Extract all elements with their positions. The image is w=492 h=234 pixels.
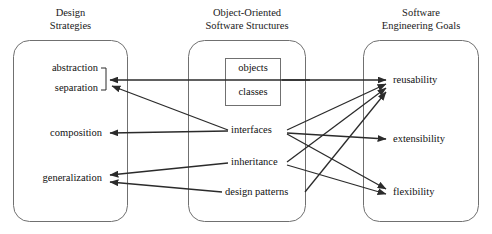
node-reusability: reusability xyxy=(393,74,437,86)
edge-inheritance-to-flexibility xyxy=(287,165,386,194)
bracket-abstraction-separation xyxy=(101,68,106,90)
column-header-line2: Software Structures xyxy=(182,20,312,33)
node-design-patterns: design patterns xyxy=(225,186,288,198)
column-header-line2: Engineering Goals xyxy=(358,20,484,33)
node-separation: separation xyxy=(20,82,98,94)
diagram-canvas: Design Strategies Object-Oriented Softwa… xyxy=(0,0,492,234)
edge-design-patterns-to-generalization xyxy=(110,182,222,192)
column-header-line2: Strategies xyxy=(13,20,128,33)
edge-interfaces-to-reusability xyxy=(287,84,386,130)
diagram-graphics xyxy=(0,0,492,234)
column-header-line1: Object-Oriented xyxy=(182,7,312,20)
column-header-oo-software-structures: Object-Oriented Software Structures xyxy=(182,7,312,32)
edge-inheritance-to-reusability xyxy=(287,88,386,162)
edge-interfaces-to-flexibility xyxy=(287,134,386,189)
column-header-line1: Software xyxy=(358,7,484,20)
column-header-design-strategies: Design Strategies xyxy=(13,7,128,32)
node-classes: classes xyxy=(226,86,280,97)
edge-design-patterns-to-reusability xyxy=(305,92,386,192)
node-objects: objects xyxy=(226,62,280,73)
node-interfaces: interfaces xyxy=(231,124,272,136)
node-extensibility: extensibility xyxy=(393,133,445,145)
column-header-software-engineering-goals: Software Engineering Goals xyxy=(358,7,484,32)
node-composition: composition xyxy=(20,127,102,139)
node-flexibility: flexibility xyxy=(393,186,434,198)
node-abstraction: abstraction xyxy=(20,62,98,74)
edge-interfaces-to-separation xyxy=(112,86,228,130)
edge-interfaces-to-extensibility xyxy=(287,133,386,139)
node-inheritance: inheritance xyxy=(231,156,278,168)
column-header-line1: Design xyxy=(13,7,128,20)
node-generalization: generalization xyxy=(18,172,102,184)
